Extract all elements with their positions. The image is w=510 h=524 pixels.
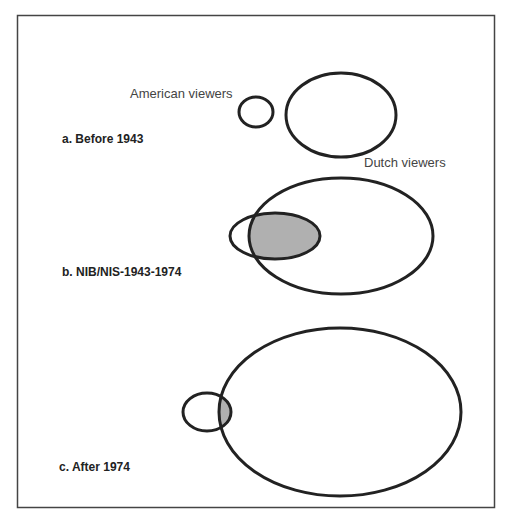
venn-diagram [0,0,510,524]
panel-c-label: c. After 1974 [59,460,130,474]
american-viewers-label: American viewers [130,86,233,101]
panel-b-label: b. NIB/NIS-1943-1974 [62,265,181,279]
dutch-viewers-ellipse-a [286,73,396,157]
panel-a-label: a. Before 1943 [62,132,143,146]
american-viewers-circle-a [239,97,273,127]
dutch-viewers-ellipse-c [219,328,461,496]
dutch-viewers-label: Dutch viewers [364,155,446,170]
